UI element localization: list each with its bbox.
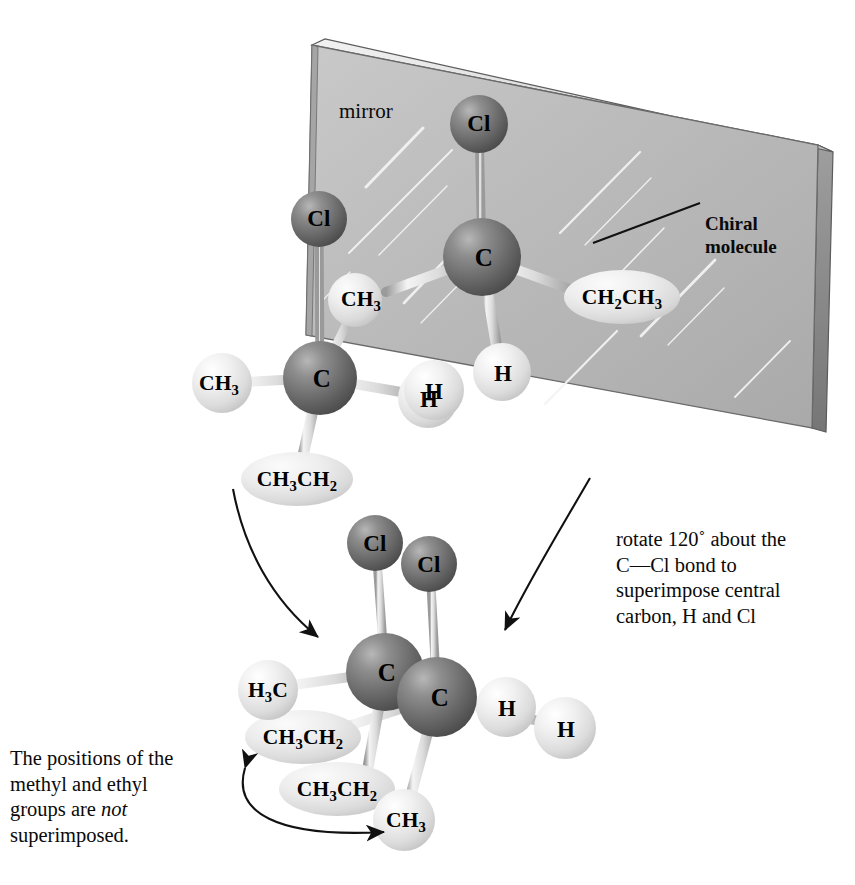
- chiral-callout-line-1: Chiral: [705, 213, 758, 234]
- arrow-group-swap: [243, 768, 384, 833]
- not-superimposed-line-3: groups are not: [10, 797, 242, 823]
- chiral-callout-line-2: molecule: [705, 236, 777, 257]
- mirror-label: mirror: [339, 99, 393, 124]
- rotate-line-2: C—Cl bond to: [616, 553, 852, 579]
- not-superimposed-line-4: superimposed.: [10, 823, 242, 849]
- rotate-instruction-note: rotate 120˚ about the C—Cl bond to super…: [616, 527, 852, 629]
- chiral-molecule-callout: Chiral molecule: [705, 212, 845, 258]
- not-superimposed-line-2: methyl and ethyl: [10, 772, 242, 798]
- chiral-callout-leader-line: [593, 203, 700, 243]
- not-superimposed-line-1: The positions of the: [10, 746, 242, 772]
- rotate-line-1: rotate 120˚ about the: [616, 527, 852, 553]
- rotate-line-3: superimpose central: [616, 578, 852, 604]
- not-emphasis: not: [101, 798, 127, 820]
- figure-canvas: Cl C CH3 CH3 H CH3CH2 Cl C CH2CH3 H H Cl…: [0, 0, 855, 885]
- arrow-left-transform: [233, 489, 318, 637]
- not-superimposed-line-3-text: groups are: [10, 798, 101, 820]
- arrow-right-transform: [505, 478, 590, 630]
- rotate-line-4: carbon, H and Cl: [616, 604, 852, 630]
- not-superimposed-note: The positions of the methyl and ethyl gr…: [10, 746, 242, 848]
